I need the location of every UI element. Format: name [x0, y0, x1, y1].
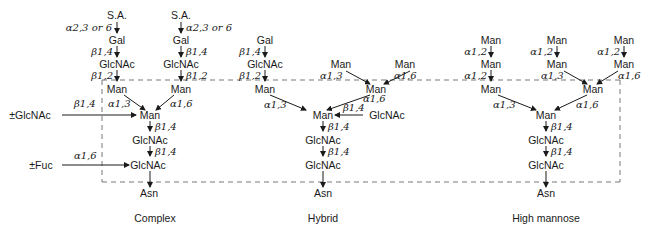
- linkage-label: β1,4: [155, 121, 177, 133]
- linkage-label: α1,2: [597, 46, 620, 58]
- linkage-label: α2,3 or 6: [66, 22, 112, 34]
- residue-sialic-acid: S.A.: [107, 9, 127, 21]
- linkage-label: α1,6: [74, 150, 97, 162]
- residue-core-glcnac: GlcNAc: [305, 134, 341, 146]
- linkage-label: β1,4: [343, 102, 365, 114]
- residue-core-glcnac: GlcNAc: [528, 159, 564, 171]
- linkage-label: β1,4: [74, 98, 96, 110]
- linkage-label: β1,4: [551, 121, 573, 133]
- caption-complex: Complex: [134, 212, 175, 224]
- residue-asparagine: Asn: [140, 187, 158, 199]
- residue-mannose: Man: [481, 34, 501, 46]
- residue-mannose: Man: [107, 83, 127, 95]
- linkage-label: β1,2: [91, 70, 113, 82]
- residue-galactose: Gal: [257, 34, 273, 46]
- residue-bisecting-glcnac: GlcNAc: [369, 109, 405, 121]
- linkage-label: β1,2: [186, 70, 208, 82]
- linkage-label: β1,2: [239, 70, 261, 82]
- linkage-label: α1,2: [464, 46, 487, 58]
- linkage-label: β1,4: [155, 146, 177, 158]
- residue-mannose: Man: [481, 83, 501, 95]
- linkage-label: α1,3: [493, 99, 516, 111]
- linkage-label: β1,4: [328, 146, 350, 158]
- residue-galactose: Gal: [109, 34, 125, 46]
- caption-hybrid: Hybrid: [308, 212, 338, 224]
- residue-mannose: Man: [481, 58, 501, 70]
- linkage-label: β1,4: [551, 146, 573, 158]
- residue-core-glcnac: GlcNAc: [528, 134, 564, 146]
- linkage-label: α1,3: [541, 70, 564, 82]
- linkage-label: β1,4: [239, 46, 261, 58]
- residue-mannose: Man: [331, 58, 351, 70]
- residue-mannose: Man: [583, 83, 603, 95]
- linkage-label: α1,6: [394, 70, 417, 82]
- residue-mannose: Man: [255, 83, 275, 95]
- residue-mannose: Man: [547, 58, 567, 70]
- residue-core-glcnac: GlcNAc: [130, 159, 166, 171]
- linkage-label: α1,6: [618, 70, 641, 82]
- residue-mannose: Man: [171, 83, 191, 95]
- residue-optional-glcnac: ±GlcNAc: [9, 109, 50, 121]
- residue-core-glcnac: GlcNAc: [305, 159, 341, 171]
- residue-optional-fucose: ±Fuc: [29, 159, 52, 171]
- n-glycan-types-diagram: S.A. S.A. α2,3 or 6 α2,3 or 6 Gal Gal β1…: [0, 0, 651, 233]
- residue-glcnac: GlcNAc: [99, 58, 135, 70]
- linkage-label: α1,2: [530, 46, 553, 58]
- linkage-label: β1,4: [186, 46, 208, 58]
- residue-asparagine: Asn: [314, 187, 332, 199]
- residue-mannose: Man: [614, 34, 634, 46]
- residue-galactose: Gal: [173, 34, 189, 46]
- linkage-label: α1,6: [576, 99, 599, 111]
- linkage-label: β1,4: [91, 46, 113, 58]
- linkage-label: β1,4: [328, 121, 350, 133]
- residue-sialic-acid: S.A.: [171, 9, 191, 21]
- linkage-label: α1,6: [363, 93, 386, 105]
- linkage-label: α1,3: [108, 98, 131, 110]
- residue-mannose: Man: [395, 58, 415, 70]
- linkage-label: α1,3: [320, 70, 343, 82]
- linkage-label: α1,3: [264, 99, 287, 111]
- linkage-label: α1,6: [170, 98, 193, 110]
- residue-mannose: Man: [547, 34, 567, 46]
- residue-core-mannose: Man: [313, 109, 333, 121]
- residue-core-mannose: Man: [536, 109, 556, 121]
- residue-core-mannose: Man: [140, 109, 160, 121]
- linkage-label: α2,3 or 6: [186, 22, 232, 34]
- residue-mannose: Man: [614, 58, 634, 70]
- residue-glcnac: GlcNAc: [247, 58, 283, 70]
- linkage-label: α1,2: [464, 70, 487, 82]
- residue-asparagine: Asn: [537, 187, 555, 199]
- caption-high-mannose: High mannose: [512, 212, 580, 224]
- residue-glcnac: GlcNAc: [163, 58, 199, 70]
- residue-core-glcnac: GlcNAc: [132, 134, 168, 146]
